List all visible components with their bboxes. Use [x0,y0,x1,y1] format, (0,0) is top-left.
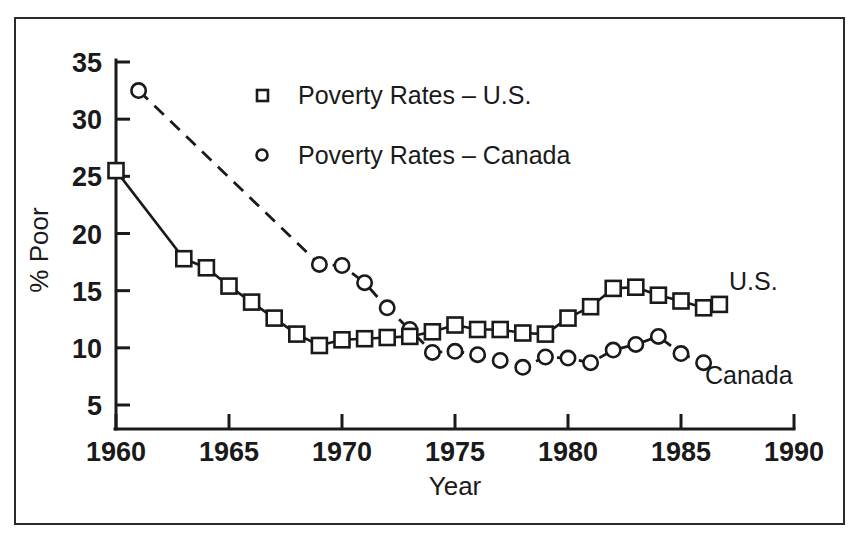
y-tick-label: 25 [72,162,102,192]
canada-data-point-marker [674,346,688,360]
series-end-labels: U.S.Canada [705,267,793,390]
legend-marker-square [257,90,268,101]
legend-item-label: Poverty Rates – Canada [298,141,570,169]
series-markers-us [109,163,727,353]
us-data-point-marker [425,324,440,339]
us-data-point-marker [561,311,576,326]
us-data-point-marker [402,329,417,344]
us-data-point-marker [357,331,372,346]
canada-data-point-marker [470,348,484,362]
y-tick-label: 35 [72,48,102,78]
canada-data-point-marker [606,343,620,357]
y-axis-tick-labels: 5101520253035 [72,48,102,421]
canada-data-point-marker [312,257,326,271]
y-tick-label: 30 [72,105,102,135]
us-data-point-marker [470,322,485,337]
canada-data-point-marker [380,301,394,315]
canada-data-point-marker [335,258,349,272]
us-trend-line [116,171,719,346]
x-tick-label: 1975 [425,437,485,467]
us-data-point-marker [606,281,621,296]
x-tick-label: 1990 [764,437,824,467]
us-data-point-marker [109,163,124,178]
us-data-point-marker [515,326,530,341]
us-data-point-marker [222,279,237,294]
legend-marker-circle [257,150,268,161]
poverty-rates-chart: 5101520253035 19601965197019751980198519… [0,0,855,546]
series-line-canada [139,91,704,368]
canada-data-point-marker [493,353,507,367]
canada-data-point-marker [651,329,665,343]
canada-data-point-marker [425,345,439,359]
chart-legend: Poverty Rates – U.S.Poverty Rates – Cana… [257,81,571,169]
y-axis-title: % Poor [24,207,54,293]
us-data-point-marker [628,280,643,295]
series-end-label: Canada [705,361,793,389]
y-tick-label: 20 [72,220,102,250]
y-tick-label: 5 [87,391,102,421]
us-data-point-marker [538,327,553,342]
us-data-point-marker [335,332,350,347]
series-end-label: U.S. [729,267,778,295]
y-tick-label: 10 [72,334,102,364]
us-data-point-marker [289,327,304,342]
x-tick-label: 1960 [86,437,146,467]
series-markers-canada [131,83,710,374]
us-data-point-marker [674,294,689,309]
us-data-point-marker [712,297,727,312]
x-tick-label: 1980 [538,437,598,467]
us-data-point-marker [583,299,598,314]
us-data-point-marker [380,330,395,345]
us-data-point-marker [199,260,214,275]
us-data-point-marker [312,338,327,353]
canada-trend-line [139,91,704,368]
x-axis-ticks [116,414,794,429]
x-tick-label: 1985 [651,437,711,467]
us-data-point-marker [176,251,191,266]
x-axis-title: Year [429,471,482,501]
canada-data-point-marker [357,276,371,290]
canada-data-point-marker [583,356,597,370]
canada-data-point-marker [538,350,552,364]
y-axis-ticks [116,62,130,405]
us-data-point-marker [493,322,508,337]
canada-data-point-marker [448,344,462,358]
x-tick-label: 1970 [312,437,372,467]
x-tick-label: 1965 [199,437,259,467]
us-data-point-marker [696,300,711,315]
legend-item-label: Poverty Rates – U.S. [298,81,531,109]
canada-data-point-marker [131,83,145,97]
us-data-point-marker [244,295,259,310]
us-data-point-marker [651,288,666,303]
y-tick-label: 15 [72,277,102,307]
us-data-point-marker [448,318,463,333]
series-line-us [116,171,719,346]
us-data-point-marker [267,311,282,326]
canada-data-point-marker [629,337,643,351]
canada-data-point-marker [516,360,530,374]
canada-data-point-marker [561,351,575,365]
x-axis-tick-labels: 1960196519701975198019851990 [86,437,824,467]
